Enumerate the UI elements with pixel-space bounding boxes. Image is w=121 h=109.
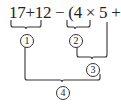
step-marker-2: 2 [69, 34, 83, 48]
brace-step-1 [11, 20, 41, 29]
step-marker-3: 3 [86, 63, 100, 77]
step-marker-4: 4 [56, 86, 70, 100]
brace-step-2 [67, 20, 90, 29]
step-marker-1: 1 [20, 34, 34, 48]
